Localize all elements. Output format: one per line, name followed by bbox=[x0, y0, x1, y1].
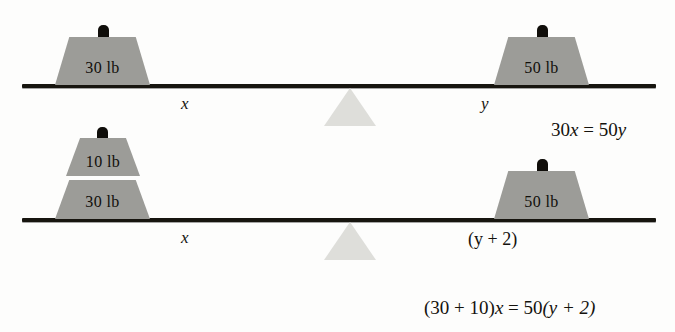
distance-label-y-plus-2-bottom: (y + 2) bbox=[468, 229, 517, 250]
equation-top-rhs-coefficient: 50 bbox=[599, 119, 618, 140]
weight-label-top-right: 50 lb bbox=[494, 59, 589, 77]
weight-block-bottom-right: 50 lb bbox=[494, 171, 589, 219]
equation-bottom-lhs-variable: x bbox=[495, 297, 503, 318]
distance-label-x-top: x bbox=[181, 94, 189, 114]
fulcrum-triangle-top bbox=[324, 88, 376, 126]
distance-label-y-plus-2-text: (y + 2) bbox=[468, 229, 517, 249]
weight-block-bottom-left-upper: 10 lb bbox=[66, 138, 140, 176]
weight-block-bottom-left-lower: 30 lb bbox=[55, 180, 150, 219]
equation-bottom-rhs-group: (y + 2) bbox=[543, 297, 596, 318]
equation-top-rhs-variable: y bbox=[618, 119, 626, 140]
lever-balance-figure: 30 lb 50 lb x y 30x = 50y 10 lb 30 lb 50… bbox=[0, 0, 675, 332]
fulcrum-triangle-bottom bbox=[324, 222, 376, 260]
equation-bottom: (30 + 10)x = 50(y + 2) bbox=[424, 297, 595, 319]
equation-top: 30x = 50y bbox=[551, 119, 626, 141]
equation-top-lhs-variable: x bbox=[570, 119, 578, 140]
equation-bottom-relation: = bbox=[508, 297, 519, 318]
weight-label-bottom-right: 50 lb bbox=[494, 193, 589, 211]
equation-top-lhs-coefficient: 30 bbox=[551, 119, 570, 140]
weight-label-top-left: 30 lb bbox=[55, 59, 150, 77]
weight-block-top-left: 30 lb bbox=[55, 37, 150, 85]
equation-bottom-rhs-coefficient: 50 bbox=[524, 297, 543, 318]
distance-label-x-bottom: x bbox=[181, 228, 189, 248]
distance-label-y-top: y bbox=[481, 94, 489, 114]
equation-top-relation: = bbox=[583, 119, 594, 140]
equation-bottom-lhs: (30 + 10) bbox=[424, 297, 495, 318]
weight-label-bottom-left-lower: 30 lb bbox=[55, 193, 150, 211]
weight-block-top-right: 50 lb bbox=[494, 37, 589, 85]
weight-label-bottom-left-upper: 10 lb bbox=[66, 153, 140, 171]
